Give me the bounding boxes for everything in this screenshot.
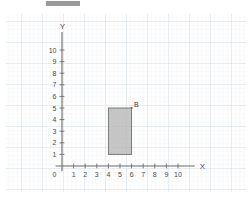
x-tick-label: 2	[83, 171, 87, 178]
y-tick-label: 5	[53, 105, 57, 112]
x-tick-label: 7	[141, 171, 145, 178]
y-tick-label: 8	[53, 70, 57, 77]
graph-figure: B12345678910123456789100XY	[0, 0, 252, 200]
y-tick-label: 2	[53, 139, 57, 146]
graph-paper-background	[6, 14, 246, 192]
y-axis-label: Y	[60, 22, 66, 31]
y-tick-label: 3	[53, 128, 57, 135]
y-tick-label: 6	[53, 93, 57, 100]
x-axis-label: X	[200, 162, 206, 171]
x-tick-label: 1	[72, 171, 76, 178]
x-tick-label: 6	[130, 171, 134, 178]
y-tick-label: 9	[53, 58, 57, 65]
y-tick-label: 10	[49, 47, 57, 54]
y-tick-label: 4	[53, 116, 57, 123]
x-tick-label: 8	[153, 171, 157, 178]
x-tick-label: 10	[174, 171, 182, 178]
y-tick-label: 1	[53, 151, 57, 158]
x-tick-label: 3	[95, 171, 99, 178]
origin-label: 0	[53, 171, 57, 178]
coordinate-plane: B12345678910123456789100XY	[0, 0, 252, 200]
x-tick-label: 4	[106, 171, 110, 178]
x-tick-label: 9	[164, 171, 168, 178]
y-tick-label: 7	[53, 81, 57, 88]
x-tick-label: 5	[118, 171, 122, 178]
rectangle-b	[108, 108, 131, 154]
shape-label-b: B	[134, 101, 139, 108]
vertex-marker	[131, 107, 133, 109]
